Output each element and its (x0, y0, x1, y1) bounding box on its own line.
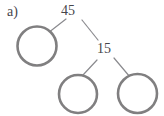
node-circle-inner-left-child (59, 75, 97, 113)
node-value-inner: 15 (97, 42, 111, 56)
node-value-root: 45 (61, 4, 75, 18)
edge-inner-to-left-child (83, 60, 97, 75)
node-circle-inner-right-child (118, 74, 157, 113)
edge-inner-to-right-child (114, 58, 130, 77)
edge-root-to-inner (82, 20, 98, 40)
tree-diagram-figure: a) 45 15 (0, 0, 164, 116)
panel-label: a) (7, 5, 18, 19)
node-circle-root-left-child (18, 27, 57, 66)
diagram-canvas (0, 0, 164, 116)
